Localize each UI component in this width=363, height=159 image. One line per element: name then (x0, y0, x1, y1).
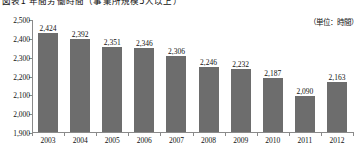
bar-2005 (102, 47, 122, 132)
bar-2008 (199, 67, 219, 132)
bar-2004 (70, 39, 90, 132)
bar-2003 (38, 33, 58, 132)
y-axis-label: 2,100 (0, 91, 30, 100)
y-axis-label: 2,000 (0, 110, 30, 119)
bar-2007 (166, 56, 186, 132)
y-axis-label: 2,400 (0, 34, 30, 43)
x-axis-label: 2012 (317, 136, 357, 145)
bar-chart: 図表1 年間労働時間（事業所規模5人以上） （単位：時間） 2,5002,400… (0, 0, 363, 159)
bar-2006 (134, 48, 154, 132)
bar-2009 (231, 69, 251, 132)
y-axis-label: 1,900 (0, 129, 30, 138)
y-axis-label: 2,300 (0, 53, 30, 62)
bar-2010 (263, 78, 283, 132)
page-title: 図表1 年間労働時間（事業所規模5人以上） (2, 0, 182, 6)
bar-value-label: 2,306 (156, 47, 196, 56)
y-axis-label: 2,200 (0, 72, 30, 81)
bar-value-label: 2,090 (285, 87, 325, 96)
bar-2012 (327, 82, 347, 132)
y-axis-label: 2,500 (0, 16, 30, 25)
bar-value-label: 2,163 (317, 73, 357, 82)
bar-2011 (295, 96, 315, 132)
bar-value-label: 2,187 (253, 69, 293, 78)
